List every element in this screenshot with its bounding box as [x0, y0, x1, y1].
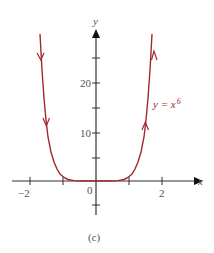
y-axis-label: y [92, 15, 98, 27]
x-tick-label-2: 2 [159, 187, 165, 199]
y-tick-label-10: 10 [80, 127, 92, 139]
figure-caption: (c) [88, 231, 101, 244]
y-tick-label-20: 20 [80, 77, 92, 89]
x-tick-label-neg2: −2 [18, 187, 30, 199]
curve-label: y = x6 [152, 97, 181, 110]
chart-canvas: y x −2 0 2 10 20 y = x6 (c) [0, 0, 214, 253]
x-axis-label: x [197, 175, 203, 187]
x-tick-label-0: 0 [87, 184, 93, 196]
y-axis-arrow-icon [92, 29, 100, 38]
arrow-up-icon [152, 51, 158, 60]
